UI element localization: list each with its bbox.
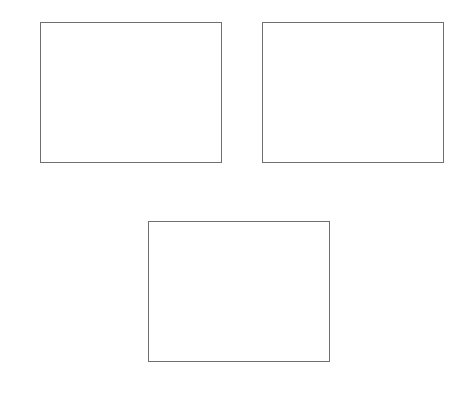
- figure-two-moons-clustering: [0, 0, 459, 399]
- panel-c: [115, 200, 345, 399]
- panel-c-plot-area: [148, 221, 330, 362]
- panel-b-plot-area: [262, 22, 444, 163]
- panel-a: [0, 0, 230, 200]
- panel-b: [229, 0, 459, 200]
- panel-c-scatter: [149, 222, 330, 362]
- panel-a-plot-area: [40, 22, 222, 163]
- panel-a-scatter: [41, 23, 222, 163]
- panel-b-scatter: [263, 23, 444, 163]
